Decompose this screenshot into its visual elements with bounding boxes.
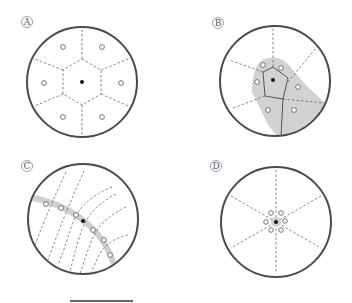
- panel-d-neighbor-point: [279, 211, 284, 216]
- panel-b-neighbor-point: [261, 63, 266, 68]
- panel-c-neighbor-point: [91, 228, 96, 233]
- panel-a-neighbor-point: [119, 81, 124, 86]
- panel-b-label: B: [213, 18, 224, 29]
- panel-a-neighbor-point: [61, 45, 66, 50]
- panel-d-neighbor-point: [279, 228, 284, 233]
- panel-a-spoke: [101, 94, 133, 108]
- panel-b-neighbor-point: [296, 85, 301, 90]
- panel-d-center-point: [274, 220, 278, 224]
- panel-a-spoke: [30, 57, 63, 70]
- panel-a-label: A: [22, 17, 33, 28]
- panel-c-label: C: [22, 161, 33, 172]
- panel-d-neighbor-point: [269, 211, 274, 216]
- panel-c-neighbor-point: [102, 238, 107, 243]
- diagram-canvas: A B: [0, 0, 352, 303]
- panel-c-center-point: [81, 219, 85, 223]
- panel-a-center-point: [80, 80, 84, 84]
- panel-a-neighbor-point: [100, 45, 105, 50]
- panel-b-label-text: B: [215, 18, 222, 28]
- panel-b-neighbor-point: [266, 108, 271, 113]
- panel-a-neighbor-point: [61, 115, 66, 120]
- panel-c-neighbor-point: [44, 202, 49, 207]
- panel-a-label-text: A: [23, 17, 31, 27]
- panel-b-neighbor-point: [255, 80, 260, 85]
- panel-b-shaded-region: [252, 57, 330, 142]
- panel-d-label: D: [211, 161, 222, 172]
- panel-c-label-text: C: [24, 161, 31, 171]
- panel-d-neighbor-point: [264, 220, 269, 225]
- panel-b-dashed-edge: [288, 48, 316, 82]
- panel-a-neighbor-point: [100, 115, 105, 120]
- panel-d-label-text: D: [212, 161, 219, 171]
- panel-d-neighbor-point: [269, 228, 274, 233]
- panel-c-dashed-curve: [58, 187, 112, 265]
- panel-a-neighbor-point: [42, 81, 47, 86]
- panel-b-neighbor-point: [292, 108, 297, 113]
- panel-c-neighbor-point: [59, 206, 64, 211]
- panel-c-neighbor-point: [74, 213, 79, 218]
- panel-b-center-point: [271, 78, 275, 82]
- panel-c-neighbor-point: [108, 253, 113, 258]
- panel-a: A: [22, 17, 138, 138]
- panel-a-spoke: [30, 94, 63, 108]
- panel-b-neighbor-point: [279, 66, 284, 71]
- panel-d-neighbor-point: [283, 219, 288, 224]
- panel-a-spoke: [101, 57, 133, 70]
- panel-c: C: [22, 161, 139, 279]
- panel-b: B: [213, 18, 331, 143]
- panel-d: D: [211, 161, 332, 278]
